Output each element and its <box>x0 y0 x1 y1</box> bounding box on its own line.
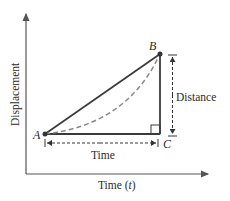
x-axis-label: Time (t) <box>98 179 136 192</box>
point-b-marker <box>158 52 163 57</box>
point-a-marker <box>43 132 48 137</box>
displacement-time-diagram: A B C Distance Time Displacement Time (t… <box>0 0 230 201</box>
time-label: Time <box>91 149 115 161</box>
distance-label: Distance <box>176 91 216 103</box>
right-angle-marker <box>151 125 160 134</box>
point-b-label: B <box>149 39 157 53</box>
y-axis-label: Displacement <box>9 62 22 126</box>
point-c-label: C <box>163 137 172 151</box>
point-a-label: A <box>32 128 41 142</box>
hypotenuse-ab <box>45 54 160 134</box>
